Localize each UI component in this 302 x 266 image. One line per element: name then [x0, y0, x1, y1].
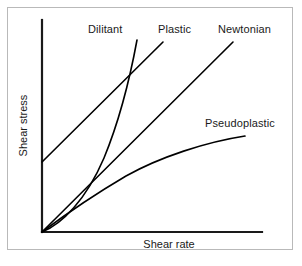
curve-label-newtonian: Newtonian [218, 24, 271, 35]
curve-newtonian [42, 42, 233, 232]
x-axis-label: Shear rate [104, 239, 234, 250]
curve-label-pseudoplastic: Pseudoplastic [205, 118, 275, 129]
rheology-figure: Dilitant Plastic Newtonian Pseudoplastic… [0, 0, 302, 266]
curve-label-dilatant: Dilitant [88, 24, 122, 35]
curve-plastic [42, 42, 163, 162]
curve-label-plastic: Plastic [158, 24, 191, 35]
y-axis-label: Shear stress [18, 81, 29, 171]
plot-area [0, 0, 302, 266]
curve-pseudoplastic [42, 136, 245, 232]
curve-dilatant [42, 40, 137, 232]
